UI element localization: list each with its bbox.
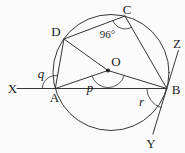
label-A: A [50, 90, 60, 105]
label-angle-96: 96° [100, 28, 115, 40]
label-X: X [8, 81, 18, 96]
geometry-figure: X A D C O B Z Y q p r 96° [0, 0, 185, 153]
label-C: C [123, 2, 132, 17]
label-Z: Z [173, 36, 181, 51]
label-angle-q: q [38, 66, 45, 81]
label-D: D [51, 24, 60, 39]
label-Y: Y [146, 136, 156, 151]
center-point-dot [106, 68, 110, 72]
figure-canvas: X A D C O B Z Y q p r 96° [0, 0, 185, 153]
label-O: O [111, 54, 120, 69]
label-angle-p: p [86, 80, 94, 95]
label-B: B [172, 82, 181, 97]
